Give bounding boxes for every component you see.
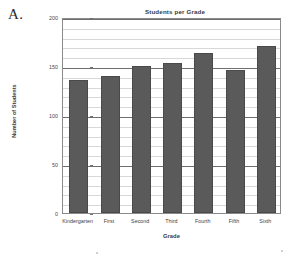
y-tick-label: 200 — [34, 15, 58, 21]
y-tick-mark — [90, 67, 93, 68]
y-axis-tick-labels: 050100150200 — [32, 0, 58, 263]
y-tick-label: 100 — [34, 113, 58, 119]
bar — [226, 70, 245, 213]
x-tick-label: Fifth — [218, 217, 249, 225]
x-tick-label: Kindergarten — [62, 217, 93, 225]
bar-chart-figure: Students per Grade 050100150200 Number o… — [0, 0, 298, 263]
y-tick-mark — [90, 116, 93, 117]
x-tick-label: Sixth — [250, 217, 281, 225]
y-tick-label: 150 — [34, 64, 58, 70]
scan-artifact-right — [281, 250, 283, 252]
bar — [101, 76, 120, 213]
bar — [132, 66, 151, 213]
x-axis-tick-labels: KindergartenFirstSecondThirdFourthFifthS… — [62, 217, 281, 229]
x-tick-label: Second — [125, 217, 156, 225]
x-tick-label: First — [93, 217, 124, 225]
bar — [69, 80, 88, 213]
bar — [163, 63, 182, 213]
x-tick-label: Third — [156, 217, 187, 225]
y-tick-label: 0 — [34, 211, 58, 217]
chart-title: Students per Grade — [60, 8, 290, 15]
bar — [194, 53, 213, 213]
y-axis-title: Number of Students — [11, 66, 17, 156]
x-tick-label: Fourth — [187, 217, 218, 225]
x-axis-title: Grade — [62, 233, 281, 239]
y-tick-mark — [90, 214, 93, 215]
y-tick-label: 50 — [34, 162, 58, 168]
scan-artifact-left — [96, 252, 98, 254]
bar — [257, 46, 276, 213]
y-tick-mark — [90, 18, 93, 19]
bars-layer — [63, 19, 280, 213]
y-tick-mark — [90, 165, 93, 166]
plot-area — [62, 18, 281, 214]
